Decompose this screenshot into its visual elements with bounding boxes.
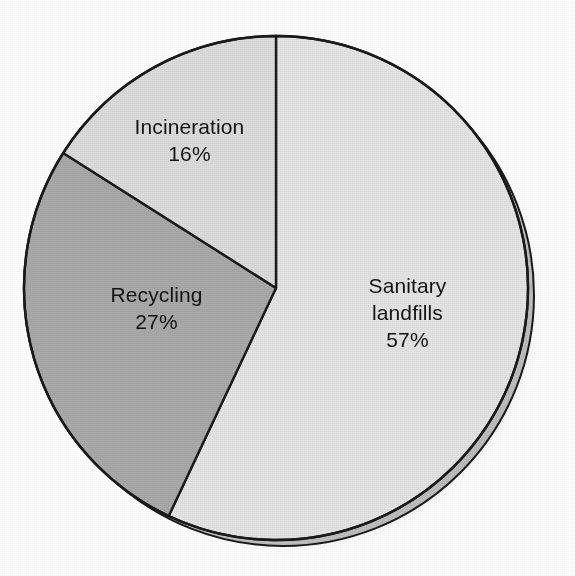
pie-chart-graphic — [0, 0, 575, 576]
pie-chart-figure: Incineration 16% Recycling 27% Sanitary … — [0, 0, 575, 576]
